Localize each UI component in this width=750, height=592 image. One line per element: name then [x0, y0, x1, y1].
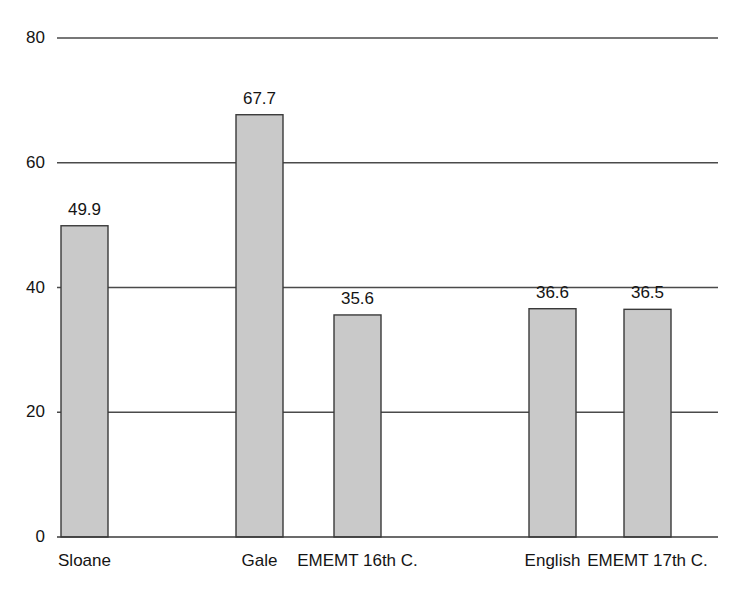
- bar-value-label: 36.5: [598, 284, 698, 301]
- bar-value-label: 35.6: [308, 290, 408, 307]
- bar[interactable]: [529, 309, 576, 537]
- y-tick-label: 80: [0, 29, 45, 46]
- y-tick-label: 40: [0, 279, 45, 296]
- bar-value-label: 67.7: [210, 90, 310, 107]
- bar[interactable]: [334, 315, 381, 537]
- y-tick-label: 20: [0, 403, 45, 420]
- bar[interactable]: [236, 115, 283, 537]
- y-tick-label: 60: [0, 154, 45, 171]
- bar-value-label: 49.9: [35, 201, 135, 218]
- bars: [61, 115, 671, 537]
- category-label: EMEMT 17th C.: [558, 552, 738, 570]
- bar-value-label: 36.6: [503, 284, 603, 301]
- category-label: Sloane: [0, 552, 175, 570]
- bar-chart: 020406080 49.967.735.636.636.5 SloaneGal…: [0, 0, 750, 592]
- bar[interactable]: [61, 226, 108, 537]
- bar[interactable]: [624, 309, 671, 537]
- category-label: EMEMT 16th C.: [268, 552, 448, 570]
- y-tick-label: 0: [0, 528, 45, 545]
- gridlines: [57, 38, 718, 412]
